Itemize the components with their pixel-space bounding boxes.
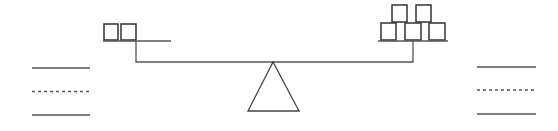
right-box-top-1 bbox=[392, 5, 407, 22]
right-box-bottom-1 bbox=[381, 23, 396, 40]
left-pan-boxes bbox=[104, 24, 136, 40]
right-box-bottom-2 bbox=[405, 23, 421, 40]
right-box-top-2 bbox=[416, 5, 431, 22]
left-box-1 bbox=[104, 24, 118, 40]
fulcrum-triangle bbox=[248, 62, 299, 111]
right-box-bottom-3 bbox=[429, 23, 445, 40]
left-answer-lines bbox=[32, 68, 90, 115]
balance-scale-diagram bbox=[0, 0, 558, 131]
left-box-2 bbox=[121, 24, 136, 40]
right-pan-boxes bbox=[381, 5, 445, 40]
right-answer-lines bbox=[477, 67, 536, 114]
